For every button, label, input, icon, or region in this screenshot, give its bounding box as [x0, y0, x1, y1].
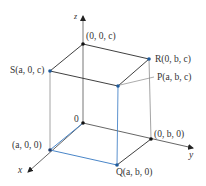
edge-a00-to-Q: [50, 150, 117, 165]
edge-P-to-Q: [117, 86, 118, 165]
label-zc: (0, 0, c): [86, 32, 116, 42]
point-origin: [81, 121, 85, 125]
edge-zc-to-R: [83, 44, 149, 59]
edge-zc-to-S: [50, 44, 83, 71]
label-0b0: (0, b, 0): [154, 130, 184, 140]
label-Q: Q(a, b, 0): [116, 168, 152, 178]
point-zc: [81, 42, 85, 46]
label-P: P(a, b, c): [157, 73, 191, 83]
label-S: S(a, 0, c): [10, 66, 44, 76]
label-a00: (a, 0, 0): [12, 141, 42, 151]
edge-R-to-0b0: [149, 59, 151, 139]
edge-0b0-to-Q: [117, 139, 151, 165]
point-S: [48, 69, 52, 73]
point-a00: [48, 148, 52, 152]
label-R: R(0, b, c): [155, 55, 191, 65]
x-axis-label: x: [18, 166, 22, 176]
point-0b0: [149, 137, 153, 141]
label-origin: 0: [74, 115, 79, 125]
P-pointer: [120, 77, 154, 85]
edge-origin-to-a00: [50, 123, 83, 150]
box-diagram: [0, 0, 206, 186]
y-axis-label: y: [189, 151, 193, 161]
point-R: [147, 57, 151, 61]
edge-S-to-P: [50, 71, 118, 86]
point-P: [116, 84, 120, 88]
z-axis-label: z: [74, 13, 77, 21]
